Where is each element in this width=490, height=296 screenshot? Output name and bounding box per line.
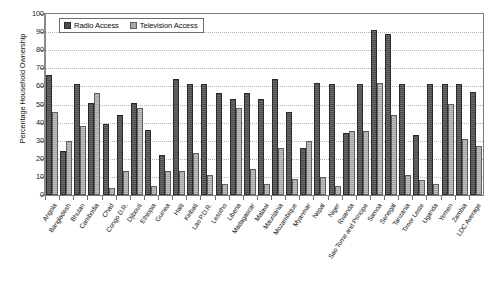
bar-television — [236, 108, 242, 195]
bar-group — [200, 14, 214, 195]
legend-item: Television Access — [130, 21, 198, 30]
y-tick-label: 20 — [10, 155, 44, 163]
bar-group — [455, 14, 469, 195]
bar-group — [215, 14, 229, 195]
y-tick-label: 40 — [10, 119, 44, 127]
bar-group — [469, 14, 483, 195]
bar-radio — [427, 84, 433, 195]
bar-television — [335, 186, 341, 195]
bar-group — [172, 14, 186, 195]
bar-television — [349, 131, 355, 195]
bar-television — [137, 108, 143, 195]
bar-television — [123, 171, 129, 195]
bar-television — [250, 169, 256, 195]
legend-label: Television Access — [140, 21, 198, 30]
bar-group — [271, 14, 285, 195]
legend-item: Radio Access — [64, 21, 119, 30]
bar-television — [462, 139, 468, 195]
bar-group — [356, 14, 370, 195]
y-tick-label: 0 — [10, 191, 44, 199]
bar-radio — [216, 93, 222, 195]
y-tick-label: 70 — [10, 64, 44, 72]
bar-group — [243, 14, 257, 195]
y-tick-label: 100 — [10, 10, 44, 18]
bar-television — [94, 93, 100, 195]
y-tick-label: 50 — [10, 101, 44, 109]
bar-group — [59, 14, 73, 195]
y-axis: Percentage Household Ownership 010203040… — [0, 0, 44, 200]
bar-group — [299, 14, 313, 195]
bar-television — [109, 188, 115, 195]
bar-television — [433, 184, 439, 195]
bar-group — [384, 14, 398, 195]
bar-television — [207, 175, 213, 195]
y-tick-label: 90 — [10, 28, 44, 36]
bar-television — [165, 171, 171, 195]
y-tick-label: 60 — [10, 82, 44, 90]
bar-television — [405, 175, 411, 195]
bars-layer — [45, 14, 483, 195]
bar-television — [80, 126, 86, 195]
bar-television — [306, 141, 312, 195]
bar-television — [391, 115, 397, 195]
bar-group — [398, 14, 412, 195]
bar-group — [186, 14, 200, 195]
bar-television — [179, 171, 185, 195]
bar-chart: Percentage Household Ownership 010203040… — [0, 0, 490, 296]
bar-television — [320, 177, 326, 195]
chart-legend: Radio AccessTelevision Access — [59, 18, 204, 33]
bar-group — [257, 14, 271, 195]
bar-television — [264, 184, 270, 195]
bar-radio — [329, 84, 335, 195]
bar-group — [313, 14, 327, 195]
bar-group — [144, 14, 158, 195]
x-tick-label: Haiti — [172, 202, 185, 216]
bar-group — [45, 14, 59, 195]
x-label-cell: LDC Average — [469, 200, 483, 294]
bar-group — [116, 14, 130, 195]
bar-group — [102, 14, 116, 195]
bar-television — [193, 153, 199, 195]
bar-television — [66, 141, 72, 195]
x-tick-label: Nepal — [311, 202, 326, 220]
bar-television — [363, 131, 369, 195]
bar-television — [151, 186, 157, 195]
bar-television — [222, 184, 228, 195]
y-tick-label: 80 — [10, 46, 44, 54]
bar-group — [285, 14, 299, 195]
bar-group — [73, 14, 87, 195]
bar-group — [328, 14, 342, 195]
bar-television — [476, 146, 482, 195]
bar-group — [229, 14, 243, 195]
x-axis-labels: AngolaBangladeshBhutanCambodiaChadCongo … — [45, 200, 483, 294]
bar-radio — [258, 99, 264, 195]
bar-group — [370, 14, 384, 195]
bar-group — [441, 14, 455, 195]
television-swatch-icon — [130, 22, 137, 29]
bar-television — [377, 83, 383, 195]
y-tick-label: 10 — [10, 173, 44, 181]
bar-group — [130, 14, 144, 195]
bar-group — [87, 14, 101, 195]
bar-group — [342, 14, 356, 195]
bar-group — [426, 14, 440, 195]
bar-group — [158, 14, 172, 195]
y-tick-label: 30 — [10, 137, 44, 145]
bar-television — [278, 148, 284, 195]
x-label-cell: Guinea — [158, 200, 172, 294]
radio-swatch-icon — [64, 22, 71, 29]
bar-group — [412, 14, 426, 195]
bar-television — [52, 112, 58, 195]
bar-television — [448, 104, 454, 195]
bar-television — [292, 179, 298, 195]
bar-radio — [103, 124, 109, 195]
bar-television — [419, 180, 425, 195]
legend-label: Radio Access — [74, 21, 119, 30]
